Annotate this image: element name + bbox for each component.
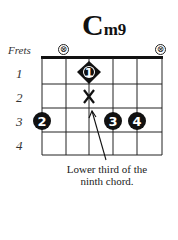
svg-text:3: 3 (108, 114, 117, 129)
caption-line-1: Lower third of the (52, 163, 162, 175)
nut (41, 56, 163, 59)
finger-3-dot-icon: 3 (104, 112, 122, 130)
annotation-caption: Lower third of the ninth chord. (52, 163, 162, 187)
strings (42, 58, 162, 155)
finger-4-dot-icon: 4 (128, 112, 146, 130)
finger-1-diamond-icon: 1 (77, 61, 101, 84)
finger-2-dot-icon: 2 (33, 112, 51, 130)
svg-text:4: 4 (132, 114, 141, 129)
caption-line-2: ninth chord. (52, 175, 162, 187)
svg-text:2: 2 (37, 114, 46, 129)
annotation-arrow-icon (89, 111, 106, 160)
svg-text:1: 1 (85, 66, 93, 80)
